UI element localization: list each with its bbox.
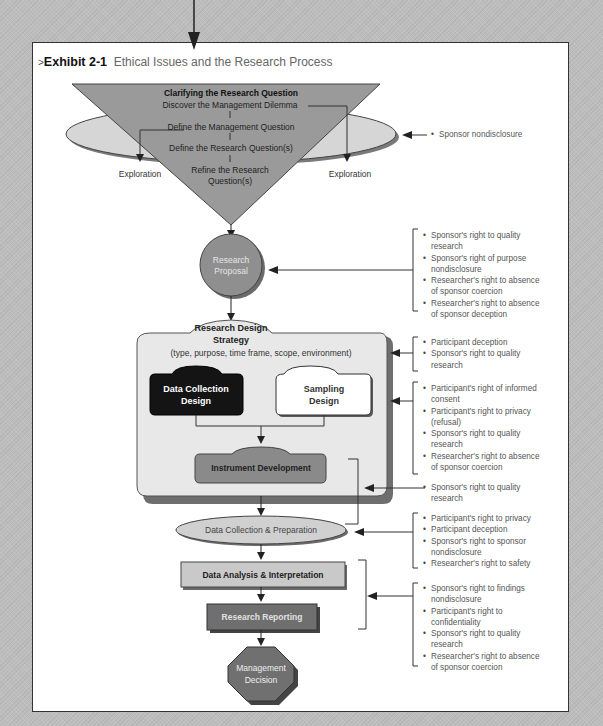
exploration-right: Exploration: [329, 169, 372, 179]
issue-item: Participant's right to privacy: [431, 514, 531, 523]
issue-item-cont: research: [431, 242, 463, 251]
issues-strategy: Participant deception Sponsor's right to…: [423, 337, 520, 371]
collection-prep-label: Data Collection & Preparation: [205, 525, 317, 535]
issue-item: Sponsor's right to sponsor: [431, 537, 526, 546]
issue-item: Sponsor's right to quality: [431, 349, 520, 358]
issue-item-cont: research: [431, 361, 463, 370]
issue-item: Researcher's right to safety: [431, 559, 530, 568]
issues-funnel: Sponsor nondisclosure: [431, 129, 522, 140]
exhibit-heading: Ethical Issues and the Research Process: [114, 55, 333, 69]
decision-label-2: Decision: [245, 675, 278, 685]
exploration-left: Exploration: [119, 169, 162, 179]
instrument-label: Instrument Development: [211, 463, 311, 473]
reporting-label: Research Reporting: [222, 612, 303, 622]
funnel-step-4: Refine the Research: [191, 165, 269, 175]
issue-item-cont: research: [431, 494, 463, 503]
incoming-arrow: [188, 0, 200, 50]
issue-item: Sponsor's right of purpose: [431, 254, 526, 263]
sampling-design-label-1: Sampling: [304, 384, 345, 394]
issue-item-cont: of sponsor deception: [431, 310, 507, 319]
issue-item-cont: of sponsor coercion: [431, 287, 502, 296]
issue-item: Participant deception: [431, 338, 507, 347]
issue-item-cont: (refusal): [431, 418, 461, 427]
exhibit-title: >Exhibit 2-1 Ethical Issues and the Rese…: [38, 55, 333, 69]
data-collection-design-label-1: Data Collection: [163, 384, 229, 394]
issues-design: Participant's right of informedconsent P…: [423, 383, 540, 473]
issue-item-cont: nondisclosure: [431, 595, 482, 604]
issue-item: Sponsor's right to quality: [431, 629, 520, 638]
issue-item-cont: nondisclosure: [431, 548, 482, 557]
funnel-step-2: Define the Management Question: [167, 122, 294, 132]
issue-item-cont: consent: [431, 395, 460, 404]
strategy-sub: (type, purpose, time frame, scope, envir…: [171, 348, 352, 358]
issue-item: Sponsor nondisclosure: [431, 129, 522, 140]
issue-item-cont: confidentiality: [431, 618, 481, 627]
data-collection-design-label-2: Design: [181, 396, 211, 406]
issue-item: Participant's right of informed: [431, 384, 537, 393]
funnel-step-4b: Question(s): [208, 176, 252, 186]
proposal-label-2: Proposal: [214, 266, 248, 276]
issues-proposal: Sponsor's right to qualityresearch Spons…: [423, 230, 540, 320]
issue-item: Sponsor's right to quality: [431, 483, 520, 492]
issue-item: Researcher's right to absence: [431, 299, 540, 308]
issue-item-cont: of sponsor coercion: [431, 663, 502, 672]
issue-item-cont: of sponsor coercion: [431, 463, 502, 472]
issue-item-cont: research: [431, 640, 463, 649]
issue-item: Participant's right to privacy: [431, 407, 531, 416]
strategy-label-1: Research Design: [194, 323, 267, 333]
proposal-label-1: Research: [213, 255, 249, 265]
issue-item: Sponsor's right to quality: [431, 231, 520, 240]
issue-item: Researcher's right to absence: [431, 652, 540, 661]
issues-analysis: Sponsor's right to findingsnondisclosure…: [423, 583, 540, 673]
issue-item: Researcher's right to absence: [431, 276, 540, 285]
exhibit-number: Exhibit 2-1: [44, 55, 107, 69]
issue-item: Sponsor's right to findings: [431, 584, 525, 593]
analysis-label: Data Analysis & Interpretation: [202, 570, 323, 580]
strategy-label-2: Strategy: [213, 335, 249, 345]
issue-item-cont: nondisclosure: [431, 265, 482, 274]
issue-item: Participant's right to: [431, 607, 503, 616]
issues-collection: Participant's right to privacy Participa…: [423, 513, 531, 569]
issues-instrument: Sponsor's right to qualityresearch: [423, 482, 520, 505]
issue-item: Sponsor's right to quality: [431, 429, 520, 438]
issue-item: Participant deception: [431, 525, 507, 534]
issue-item: Researcher's right to absence: [431, 452, 540, 461]
funnel-step-1: Discover the Management Dilemma: [162, 100, 297, 110]
decision-label-1: Management: [236, 663, 286, 673]
funnel-step-3: Define the Research Question(s): [169, 143, 293, 153]
funnel-heading: Clarifying the Research Question: [164, 88, 298, 98]
sampling-design-label-2: Design: [309, 396, 339, 406]
issue-item-cont: research: [431, 440, 463, 449]
